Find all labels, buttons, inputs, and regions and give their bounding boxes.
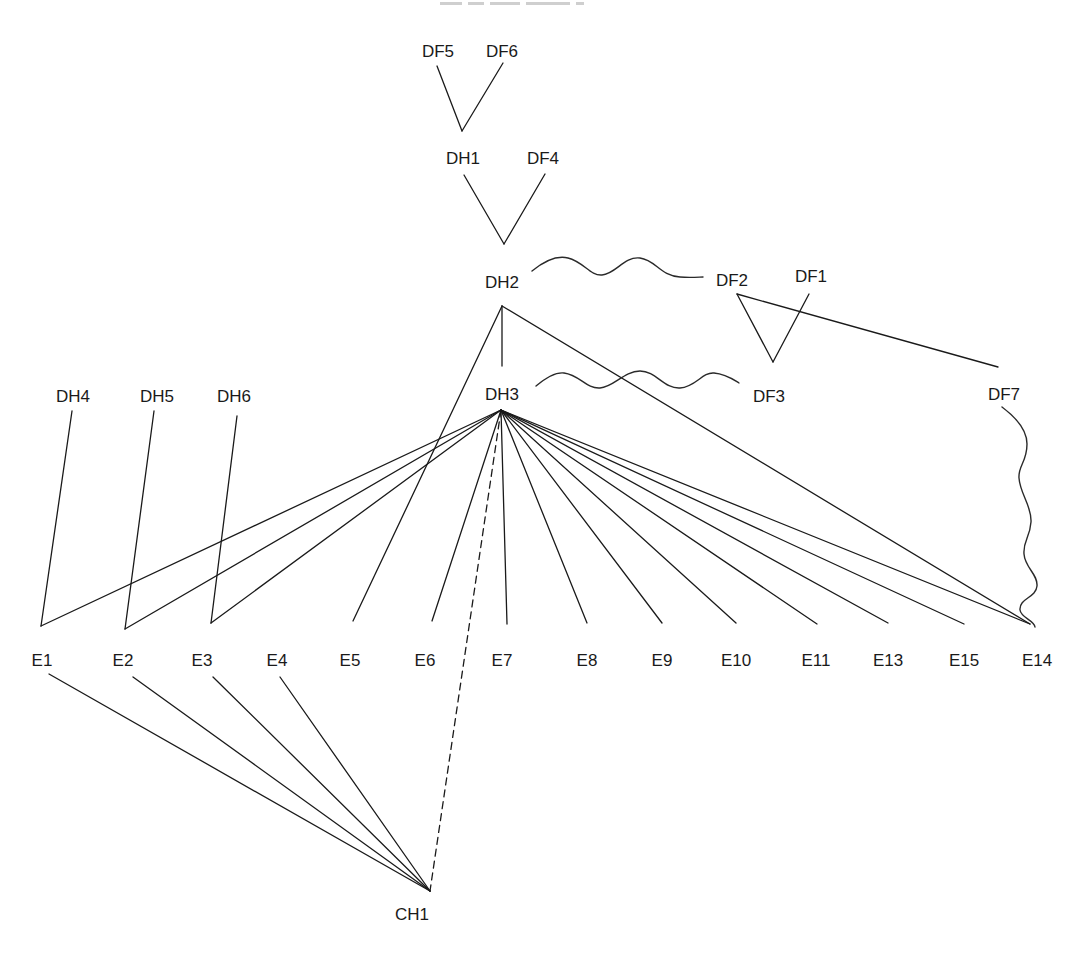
edge-dh4-e1 — [41, 411, 72, 626]
edge-dh3-e10 — [501, 410, 736, 623]
node-df6: DF6 — [486, 42, 518, 61]
edge-dh3-e14 — [501, 410, 1030, 624]
edge-dh3-e13 — [501, 410, 888, 623]
edge-dh3-e11 — [501, 410, 817, 624]
edge-df6-dh1 — [462, 63, 503, 131]
edge-dh1-dh2 — [464, 175, 504, 244]
edge-dh3-e8 — [501, 410, 587, 623]
node-dh3: DH3 — [485, 385, 519, 404]
node-e1: E1 — [32, 651, 53, 670]
node-df1: DF1 — [795, 267, 827, 286]
node-e7: E7 — [492, 651, 513, 670]
edge-e4-ch1 — [280, 677, 430, 891]
node-dh5: DH5 — [140, 387, 174, 406]
node-df4: DF4 — [527, 149, 559, 168]
edge-dh3-e3 — [211, 410, 501, 623]
node-df5: DF5 — [422, 42, 454, 61]
node-dh1: DH1 — [446, 149, 480, 168]
node-dh6: DH6 — [217, 387, 251, 406]
edge-layer — [41, 63, 1030, 891]
node-e13: E13 — [873, 651, 903, 670]
node-e11: E11 — [802, 651, 831, 670]
node-e4: E4 — [267, 651, 288, 670]
wavy-link-dh3-df3 — [536, 371, 739, 388]
edge-df1-df3 — [773, 294, 809, 362]
edge-dh5-e2 — [125, 411, 154, 629]
edge-dh3-e1 — [41, 410, 501, 626]
node-e10: E10 — [721, 651, 751, 670]
edge-df2-df3 — [737, 294, 773, 362]
edge-e3-ch1 — [213, 677, 430, 891]
node-e6: E6 — [415, 651, 436, 670]
node-e15: E15 — [949, 651, 979, 670]
edge-e1-ch1 — [49, 674, 430, 891]
edge-df5-dh1 — [437, 66, 462, 131]
node-label-layer: DF5DF6DH1DF4DH2DF2DF1DH3DF3DF7DH4DH5DH6E… — [32, 42, 1053, 924]
node-dh4: DH4 — [56, 387, 90, 406]
node-e8: E8 — [577, 651, 598, 670]
node-e9: E9 — [652, 651, 673, 670]
edge-dh3-e15 — [501, 410, 964, 624]
edge-dh3-e6 — [432, 410, 501, 621]
edge-dh6-e3 — [211, 416, 237, 623]
node-e2: E2 — [113, 651, 134, 670]
edge-dh3-e2 — [125, 410, 501, 629]
wavy-link-df7-e14 — [1002, 407, 1037, 627]
node-e3: E3 — [192, 651, 213, 670]
node-df7: DF7 — [988, 385, 1020, 404]
edge-e2-ch1 — [133, 677, 430, 891]
node-e14: E14 — [1022, 651, 1052, 670]
wavy-link-layer — [532, 257, 1037, 627]
node-df3: DF3 — [753, 387, 785, 406]
edge-dh3-e7 — [501, 410, 507, 624]
node-dh2: DH2 — [485, 273, 519, 292]
wavy-link-dh2-df2 — [532, 257, 703, 277]
edge-dh3-ch1 — [430, 410, 501, 891]
node-e5: E5 — [340, 651, 361, 670]
node-ch1: CH1 — [395, 905, 429, 924]
dependency-diagram: DF5DF6DH1DF4DH2DF2DF1DH3DF3DF7DH4DH5DH6E… — [0, 0, 1088, 962]
edge-df4-dh2 — [504, 174, 545, 244]
node-df2: DF2 — [716, 271, 748, 290]
